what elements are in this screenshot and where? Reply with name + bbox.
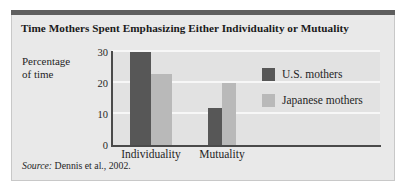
- y-tick-label: 10: [86, 109, 108, 120]
- legend-swatch-icon-us: [262, 68, 275, 81]
- bar-individuality-jp: [151, 74, 172, 145]
- chart-title: Time Mothers Spent Emphasizing Either In…: [21, 22, 387, 34]
- source-note: Source: Dennis et al., 2002.: [22, 160, 131, 171]
- y-axis-line: [111, 51, 113, 146]
- gridline: [112, 50, 380, 52]
- x-label-mutuality: Mutuality: [162, 148, 282, 160]
- source-keyword: Source:: [22, 160, 52, 171]
- chart-legend: U.S. mothers Japanese mothers: [262, 61, 388, 113]
- legend-label-jp: Japanese mothers: [282, 94, 363, 106]
- source-citation: Dennis et al., 2002.: [52, 160, 131, 171]
- legend-label-us: U.S. mothers: [282, 68, 342, 80]
- y-axis-tick-labels: 0102030: [84, 52, 108, 145]
- bar-individuality-us: [130, 52, 151, 145]
- legend-swatch-icon-jp: [262, 94, 275, 107]
- figure-header-rule: [11, 10, 395, 15]
- legend-item-us-mothers: U.S. mothers: [262, 61, 388, 87]
- bar-mutuality-us: [208, 108, 222, 145]
- x-axis-line: [111, 145, 381, 147]
- y-tick-label: 30: [86, 47, 108, 58]
- y-tick-label: 20: [86, 78, 108, 89]
- legend-item-japanese-mothers: Japanese mothers: [262, 87, 388, 113]
- bar-mutuality-jp: [222, 83, 236, 145]
